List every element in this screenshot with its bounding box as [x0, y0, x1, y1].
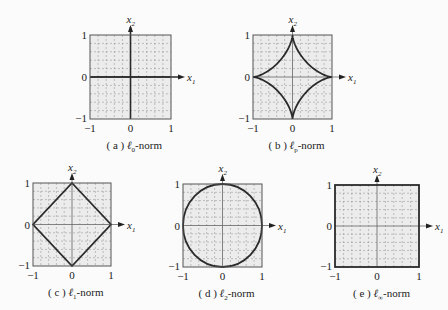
x1-label-subscript: 1 — [132, 226, 136, 234]
y-tick-0: 0 — [82, 71, 88, 83]
x1-arrow-icon — [118, 222, 125, 227]
x-tick-0: 0 — [290, 122, 296, 134]
x-tick-0: 0 — [220, 270, 226, 282]
caption-norm-suffix: -norm — [383, 287, 410, 299]
x1-label: x1 — [347, 71, 356, 86]
x1-label-subscript: 1 — [353, 78, 357, 86]
x-tick-1: 1 — [108, 269, 114, 281]
norm-unit-ball-figure: 10−1−101x1x2( a ) ℓ0-norm10−1−101x1x2( b… — [0, 0, 448, 310]
x2-label-subscript: 2 — [131, 20, 135, 28]
y-tick-0: 0 — [25, 219, 31, 231]
x-tick-0: 0 — [69, 269, 75, 281]
x-tick-neg1: −1 — [247, 122, 259, 134]
x2-label: x2 — [218, 162, 228, 177]
y-tick-1: 1 — [245, 29, 251, 41]
caption-norm-suffix: -norm — [135, 139, 162, 151]
x1-arrow-icon — [269, 223, 276, 228]
panel-e: 10−1−101x1x2( e ) ℓ∞-norm — [320, 163, 443, 302]
panel-c: 10−1−101x1x2( c ) ℓ1-norm — [18, 161, 135, 301]
x2-label-subscript: 2 — [293, 20, 297, 28]
x-tick-1: 1 — [168, 122, 174, 134]
panel-caption: ( c ) ℓ1-norm — [48, 286, 104, 301]
x2-label-subscript: 2 — [378, 170, 382, 178]
panel-caption: ( d ) ℓ2-norm — [199, 287, 255, 302]
y-tick-1: 1 — [82, 29, 88, 41]
panel-a: 10−1−101x1x2( a ) ℓ0-norm — [75, 13, 195, 154]
x-tick-neg1: −1 — [329, 270, 341, 282]
x-tick-1: 1 — [416, 270, 422, 282]
caption-norm-suffix: -norm — [298, 139, 325, 151]
x2-label: x2 — [67, 161, 77, 176]
panel-d: 10−1−101x1x2( d ) ℓ2-norm — [168, 162, 286, 302]
x-tick-0: 0 — [128, 122, 134, 134]
x1-label-subscript: 1 — [283, 227, 287, 235]
panel-b: 10−1−101x1x2( b ) ℓp-norm — [238, 13, 356, 154]
x-tick-1: 1 — [259, 270, 265, 282]
y-tick-1: 1 — [175, 178, 181, 190]
x1-label-subscript: 1 — [440, 227, 444, 235]
y-tick-0: 0 — [245, 71, 251, 83]
x1-label: x1 — [434, 220, 443, 235]
caption-norm-suffix: -norm — [77, 286, 104, 298]
y-tick-1: 1 — [25, 177, 31, 189]
x-tick-neg1: −1 — [27, 269, 39, 281]
x2-label-subscript: 2 — [73, 168, 77, 176]
y-tick-1: 1 — [327, 179, 333, 191]
x1-arrow-icon — [178, 75, 185, 80]
caption-norm-suffix: -norm — [228, 287, 255, 299]
x2-label: x2 — [288, 13, 298, 28]
panel-caption: ( e ) ℓ∞-norm — [353, 287, 410, 302]
y-tick-0: 0 — [175, 220, 181, 232]
x1-label: x1 — [186, 71, 195, 86]
x2-label: x2 — [372, 163, 382, 178]
x-tick-neg1: −1 — [177, 270, 189, 282]
panel-caption: ( b ) ℓp-norm — [269, 139, 325, 154]
x1-arrow-icon — [339, 75, 346, 80]
x1-label: x1 — [277, 220, 286, 235]
x-tick-1: 1 — [329, 122, 335, 134]
x1-arrow-icon — [426, 224, 433, 229]
x-tick-neg1: −1 — [84, 122, 96, 134]
x2-label: x2 — [126, 13, 136, 28]
x2-label-subscript: 2 — [223, 169, 227, 177]
y-tick-0: 0 — [327, 220, 333, 232]
x1-label-subscript: 1 — [192, 78, 196, 86]
x-tick-0: 0 — [374, 270, 380, 282]
panel-caption: ( a ) ℓ0-norm — [107, 139, 163, 154]
x1-label: x1 — [126, 219, 135, 234]
